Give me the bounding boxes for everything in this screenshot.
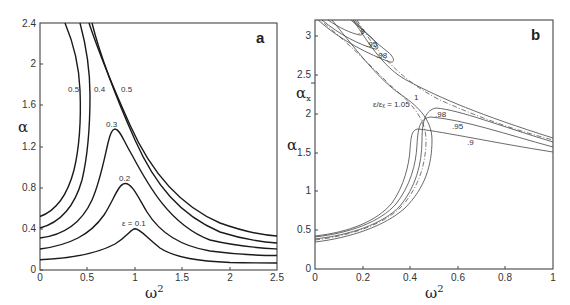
x-tick-label: 0 [37,272,43,283]
y-tick-label: 1.5 [297,147,311,158]
curve-eps-0.4-lower [40,23,90,228]
x-tick-label: 2.5 [270,272,284,283]
y-tick-label: 0 [30,264,36,275]
panel-a-x-ticks: 0 0.5 1 1.5 2 2.5 [37,267,284,283]
curve-label: 0.2 [119,174,131,183]
panel-a-label: a [256,29,265,46]
panel-b-alpha-x-marker: αx [296,84,311,103]
curve-eps-0.5-lower [40,23,80,217]
panel-a-curves [40,23,277,263]
curve-label: ε = 0.1 [122,219,146,228]
x-tick-label: 1.5 [175,272,189,283]
x-tick-label: 1 [550,272,556,283]
y-tick-label: 3 [305,30,311,41]
curve-ratio-0.95-lower [315,117,553,237]
panel-b-x-axis-label: ω2 [425,283,444,302]
x-tick-label: 0.5 [80,272,94,283]
y-tick-label: 1.6 [22,99,36,110]
figure: 0 0.4 0.8 1.2 1.6 2 2.4 0 0.5 1 1.5 2 2.… [0,0,570,305]
x-tick-label: 0.6 [451,272,465,283]
x-tick-label: 1 [132,272,138,283]
curve-label: 1 [414,93,419,102]
panel-a-y-axis-label: α [18,118,28,136]
panel-a: 0 0.4 0.8 1.2 1.6 2 2.4 0 0.5 1 1.5 2 2.… [18,18,284,302]
y-tick-label: 0.4 [22,223,36,234]
curve-ratio-0.9-lower [315,129,553,236]
curve-label: .95 [452,122,464,131]
curve-eps-0.2 [40,183,277,255]
y-tick-label: 2.4 [22,18,36,29]
y-tick-label: 1.2 [22,141,36,152]
panel-b-y-axis-label: α [287,136,297,154]
curve-label: 0.4 [94,85,106,94]
y-tick-label: 0.5 [297,224,311,235]
x-tick-label: 2 [227,272,233,283]
y-tick-label: 2 [30,58,36,69]
y-tick-label: 1 [305,185,311,196]
curve-label: .98 [376,51,388,60]
y-tick-label: 2 [305,108,311,119]
curve-ratio-0.98-lower [315,108,553,239]
panel-a-x-axis-label: ω2 [145,283,164,302]
curve-label: 0.5 [121,85,133,94]
panel-b: 0 0.5 1 1.5 2 2.5 3 0 0.2 0.4 0.6 0.8 1 … [287,20,556,302]
curve-label: 0.3 [106,120,118,129]
y-tick-label: 2.5 [297,69,311,80]
curve-ratio-1-separatrix-a [315,20,426,240]
curve-label: ε/εₓ = 1.05 [373,100,410,109]
x-tick-label: 0.2 [356,272,370,283]
panel-b-curve-labels: .9 .95 .98 1 ε/εₓ = 1.05 .98 .95 .9 [358,27,474,147]
curve-eps-0.3 [40,129,277,249]
y-tick-label: 0 [305,263,311,274]
curve-label: .95 [366,40,378,49]
x-tick-label: 0.8 [498,272,512,283]
curve-label: 0.5 [68,85,80,94]
x-tick-label: 0 [312,272,318,283]
x-tick-label: 0.4 [403,272,417,283]
panel-a-frame [40,23,277,270]
curve-label: .9 [467,138,474,147]
panel-b-label: b [531,26,540,43]
panel-b-curves [315,20,553,242]
panel-b-frame [315,20,553,269]
curve-label: .9 [358,27,365,36]
curve-label: .98 [435,110,447,119]
y-tick-label: 0.8 [22,182,36,193]
